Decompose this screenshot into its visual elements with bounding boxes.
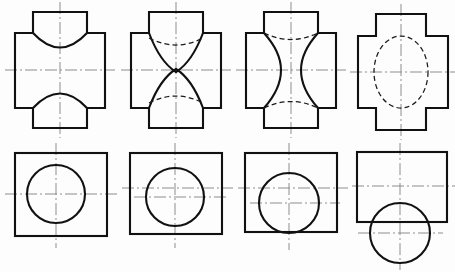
figure-cross-pointed-v[interactable] — [121, 2, 231, 138]
figure-group-bottom-row — [5, 143, 455, 270]
figure-group-top-row — [5, 2, 455, 140]
plate-outline — [130, 153, 222, 234]
figure-plate-circle-centered[interactable] — [5, 143, 118, 248]
figure-cross-hidden-ellipse[interactable] — [350, 4, 455, 140]
figure-cross-hourglass[interactable] — [236, 2, 346, 138]
drawing-canvas — [0, 0, 455, 272]
figure-plate-circle-tangent-bottom[interactable] — [238, 143, 348, 250]
plate-outline — [357, 152, 447, 222]
figure-cross-concave-arc[interactable] — [5, 2, 115, 138]
drawing-sheet — [0, 0, 455, 272]
figure-plate-circle-projecting-below[interactable] — [352, 143, 455, 270]
figure-plate-circle-offset[interactable] — [122, 143, 233, 248]
plate-outline — [245, 153, 337, 232]
